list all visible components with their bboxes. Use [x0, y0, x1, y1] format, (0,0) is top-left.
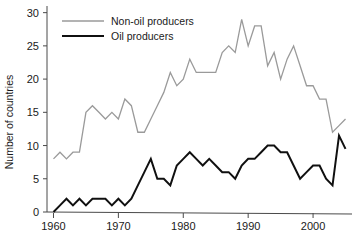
legend-label-oil-producers: Oil producers — [111, 30, 173, 42]
x-tick-label: 1980 — [171, 220, 195, 232]
y-tick-label: 5 — [33, 173, 39, 185]
y-tick-label: 0 — [33, 206, 39, 218]
chart-legend: Non-oil producers Oil producers — [62, 15, 194, 42]
chart-figure: Number of countries 051015202530 1960197… — [0, 0, 358, 246]
line-chart: Number of countries 051015202530 1960197… — [0, 0, 358, 246]
series-line-oil-producers — [53, 136, 345, 212]
y-axis-label-text: Number of countries — [3, 75, 15, 170]
x-tick-label: 1990 — [236, 220, 260, 232]
data-series-group — [53, 19, 345, 212]
y-axis-label: Number of countries — [3, 75, 15, 170]
legend-label-non-oil-producers: Non-oil producers — [111, 15, 194, 27]
x-tick-label: 2000 — [301, 220, 325, 232]
axes — [47, 6, 352, 214]
series-line-non-oil-producers — [53, 19, 345, 159]
x-axis-line — [47, 212, 352, 214]
y-tick-label: 30 — [27, 7, 39, 19]
y-tick-label: 20 — [27, 73, 39, 85]
x-tick-label: 1960 — [41, 220, 65, 232]
x-tick-label: 1970 — [106, 220, 130, 232]
y-tick-label: 10 — [27, 140, 39, 152]
y-tick-label: 15 — [27, 106, 39, 118]
x-axis-ticks: 19601970198019902000 — [41, 213, 325, 232]
y-axis-ticks: 051015202530 — [27, 7, 47, 218]
y-tick-label: 25 — [27, 40, 39, 52]
